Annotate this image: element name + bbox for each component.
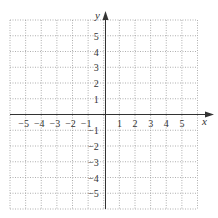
x-tick-label: 1 bbox=[117, 118, 122, 129]
axes: x y bbox=[10, 9, 214, 209]
x-tick-label: 5 bbox=[179, 118, 184, 129]
y-tick-label: 2 bbox=[94, 78, 99, 89]
x-tick-label: −5 bbox=[18, 118, 29, 129]
x-tick-label: −4 bbox=[34, 118, 45, 129]
x-tick-label: −2 bbox=[65, 118, 76, 129]
y-axis-arrow-icon bbox=[103, 11, 109, 20]
y-tick-label: 5 bbox=[94, 31, 99, 42]
x-tick-label: 3 bbox=[148, 118, 153, 129]
y-tick-label: −1 bbox=[88, 125, 99, 136]
y-tick-label: −4 bbox=[88, 173, 99, 184]
y-tick-label: −2 bbox=[88, 141, 99, 152]
y-tick-label: 1 bbox=[94, 94, 99, 105]
y-tick-label: −3 bbox=[88, 157, 99, 168]
x-tick-label: −3 bbox=[50, 118, 61, 129]
y-tick-label: −5 bbox=[88, 188, 99, 199]
y-axis-label: y bbox=[94, 9, 100, 21]
coordinate-plane: x y −5−4−3−2−11234554321−1−2−3−4−5 bbox=[0, 0, 218, 218]
x-tick-label: 2 bbox=[133, 118, 138, 129]
y-tick-label: 3 bbox=[94, 62, 99, 73]
x-tick-label: 4 bbox=[164, 118, 169, 129]
y-tick-label: 4 bbox=[94, 47, 99, 58]
x-axis-label: x bbox=[201, 115, 207, 127]
